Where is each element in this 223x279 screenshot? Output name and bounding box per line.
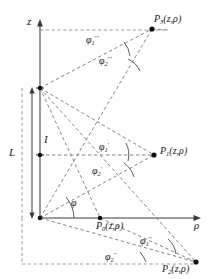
P2-args: (z,ρ): [171, 263, 189, 274]
angle-label-phi-origin: φ: [71, 198, 77, 209]
angle-label-phi-bot-1: φ1′′: [140, 236, 152, 247]
phi-bot-1-sup: ′′: [149, 235, 152, 242]
marker-P2: [193, 259, 198, 264]
phi-mid-1-sup: ′: [108, 141, 109, 148]
P1-args: (z,ρ): [169, 145, 187, 156]
geometry-drawing: [0, 0, 223, 279]
length-L-label: L: [9, 147, 15, 158]
arc-phi-bot-1: [168, 239, 176, 254]
arc-phi-mid-1: [126, 143, 129, 161]
ray-top-to-P0: [40, 88, 100, 218]
point-label-P2: P2(z,ρ): [162, 264, 189, 275]
point-label-P0: P0(z,ρ): [96, 221, 123, 232]
marker-top-vertex: [38, 86, 43, 91]
angle-label-phi-mid-1: φ1′: [99, 142, 109, 153]
z-axis-arrowhead: [37, 19, 43, 27]
phi-top-2-sup: ′′′: [108, 55, 112, 62]
point-label-P3: P3(z,ρ): [154, 14, 181, 25]
ray-top-to-P2: [40, 88, 196, 262]
angle-label-phi-bot-2: φ2′′: [105, 252, 117, 263]
P0-args: (z,ρ): [105, 220, 123, 231]
P3-args: (z,ρ): [163, 13, 181, 24]
current-I-label: I: [44, 134, 48, 145]
phi-mid-2-sup: ′: [101, 165, 102, 172]
angle-label-phi-mid-2: φ2′: [92, 166, 102, 177]
marker-P1: [151, 152, 156, 157]
marker-P3: [149, 26, 154, 31]
arc-phi-mid-2: [124, 163, 134, 177]
marker-origin: [38, 216, 43, 221]
diagram-canvas: z ρ L I P3(z,ρ) P1(z,ρ) P0(z,ρ) P2(z,ρ) …: [0, 0, 223, 279]
marker-mid-vertex: [38, 153, 43, 158]
arc-phi-top-1: [124, 42, 130, 56]
L-arrow-bottom: [29, 212, 34, 219]
phi-bot-2-sup: ′′: [114, 251, 117, 258]
ray-top-to-P1: [40, 88, 154, 155]
rho-axis-label: ρ: [194, 220, 199, 231]
phi-top-1-sup: ′′′: [95, 34, 99, 41]
phi-origin-base: φ: [71, 197, 77, 208]
L-arrow-top: [29, 87, 34, 94]
point-label-P1: P1(z,ρ): [160, 146, 187, 157]
z-axis-label: z: [27, 16, 31, 27]
angle-label-phi-top-1: φ1′′′: [86, 35, 99, 46]
arc-phi-top-2: [128, 59, 140, 71]
arc-phi-bot-2: [140, 252, 146, 262]
angle-label-phi-top-2: φ2′′′: [99, 56, 112, 67]
